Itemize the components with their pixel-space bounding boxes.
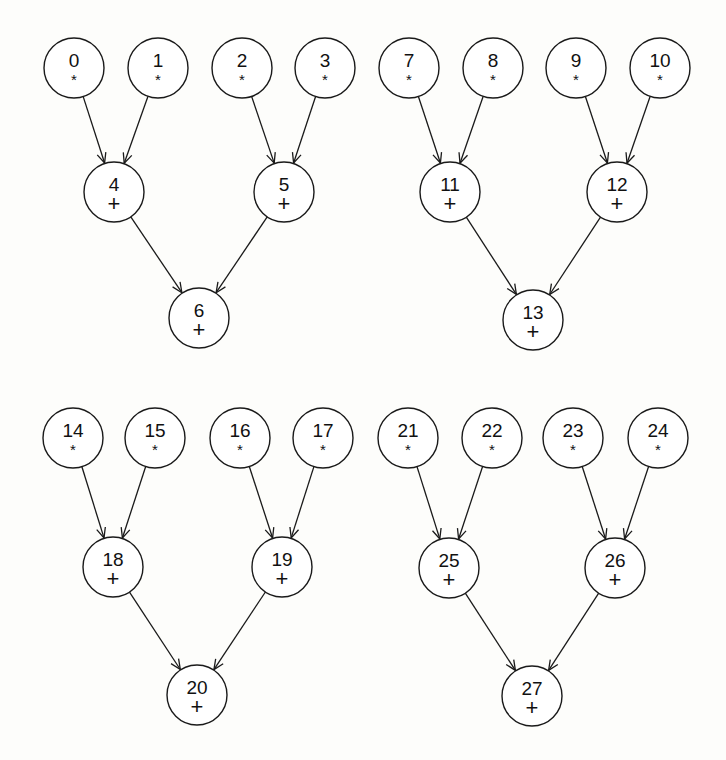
tree-b-nodes: 7*8*9*10*11+12+13+ — [379, 38, 690, 350]
edge-arrow — [550, 217, 601, 294]
add-op-icon: + — [193, 317, 206, 342]
node-5: 5+ — [254, 162, 314, 222]
edge-arrow — [418, 97, 440, 164]
node-4: 4+ — [84, 162, 144, 222]
edge-arrow — [249, 467, 272, 539]
node-6: 6+ — [169, 288, 229, 348]
node-id-label: 24 — [647, 420, 669, 441]
multiply-op-icon: * — [570, 441, 576, 458]
edge-arrow — [459, 467, 483, 540]
node-23: 23* — [543, 408, 603, 468]
nodes-layer: 0*1*2*3*4+5+6+7*8*9*10*11+12+13+14*15*16… — [43, 38, 690, 726]
node-id-label: 10 — [649, 50, 670, 71]
node-19: 19+ — [252, 537, 312, 597]
node-id-label: 14 — [62, 420, 84, 441]
edge-arrow — [460, 96, 483, 163]
multiply-op-icon: * — [489, 441, 495, 458]
edge-arrow — [82, 467, 104, 538]
add-op-icon: + — [276, 566, 289, 591]
node-12: 12+ — [587, 162, 647, 222]
multiply-op-icon: * — [320, 441, 326, 458]
edge-arrow — [466, 217, 516, 294]
add-op-icon: + — [443, 567, 456, 592]
node-2: 2* — [212, 38, 272, 98]
node-14: 14* — [43, 408, 103, 468]
edge-arrow — [83, 97, 104, 163]
add-op-icon: + — [609, 567, 622, 592]
node-id-label: 0 — [69, 50, 80, 71]
node-id-label: 7 — [404, 50, 415, 71]
node-id-label: 16 — [229, 420, 250, 441]
edge-arrow — [124, 96, 148, 163]
node-11: 11+ — [420, 162, 480, 222]
node-13: 13+ — [503, 290, 563, 350]
multiply-op-icon: * — [405, 441, 411, 458]
edge-arrow — [130, 592, 181, 669]
add-op-icon: + — [108, 191, 121, 216]
node-id-label: 8 — [488, 50, 499, 71]
node-id-label: 17 — [312, 420, 333, 441]
node-id-label: 21 — [397, 420, 418, 441]
edge-arrow — [214, 592, 266, 670]
node-20: 20+ — [167, 665, 227, 725]
node-21: 21* — [378, 408, 438, 468]
add-op-icon: + — [527, 319, 540, 344]
node-id-label: 22 — [481, 420, 502, 441]
node-17: 17* — [293, 408, 353, 468]
edge-arrow — [627, 96, 650, 163]
node-9: 9* — [546, 38, 606, 98]
add-op-icon: + — [444, 191, 457, 216]
edge-arrow — [131, 217, 182, 293]
edge-arrow — [122, 467, 145, 539]
edge-arrow — [252, 96, 275, 163]
edge-arrow — [294, 97, 316, 164]
node-id-label: 15 — [144, 420, 165, 441]
node-id-label: 23 — [562, 420, 583, 441]
edge-arrow — [549, 593, 599, 670]
node-27: 27+ — [502, 666, 562, 726]
node-15: 15* — [125, 408, 185, 468]
node-id-label: 1 — [153, 50, 164, 71]
multiply-op-icon: * — [152, 441, 158, 458]
multiply-op-icon: * — [490, 71, 496, 88]
node-8: 8* — [463, 38, 523, 98]
multiply-op-icon: * — [406, 71, 412, 88]
node-22: 22* — [462, 408, 522, 468]
node-25: 25+ — [419, 538, 479, 598]
multiply-op-icon: * — [573, 71, 579, 88]
multiply-op-icon: * — [322, 71, 328, 88]
tree-c-nodes: 14*15*16*17*18+19+20+ — [43, 408, 353, 725]
multiply-op-icon: * — [239, 71, 245, 88]
tree-a-nodes: 0*1*2*3*4+5+6+ — [44, 38, 355, 348]
node-id-label: 3 — [320, 50, 331, 71]
tree-d-nodes: 21*22*23*24*25+26+27+ — [378, 408, 688, 726]
node-18: 18+ — [83, 537, 143, 597]
node-10: 10* — [630, 38, 690, 98]
edge-arrow — [465, 593, 515, 670]
node-0: 0* — [44, 38, 104, 98]
node-16: 16* — [210, 408, 270, 468]
node-3: 3* — [295, 38, 355, 98]
edge-arrow — [585, 97, 607, 164]
multiply-op-icon: * — [155, 71, 161, 88]
add-op-icon: + — [107, 566, 120, 591]
multiply-op-icon: * — [657, 71, 663, 88]
edge-arrow — [216, 217, 267, 293]
edge-arrow — [625, 467, 649, 540]
node-id-label: 9 — [571, 50, 582, 71]
add-op-icon: + — [526, 695, 539, 720]
edge-arrow — [417, 467, 440, 539]
add-op-icon: + — [191, 694, 204, 719]
add-op-icon: + — [611, 191, 624, 216]
edge-arrow — [582, 467, 605, 540]
edges-layer — [82, 96, 650, 670]
node-1: 1* — [128, 38, 188, 98]
edge-arrow — [291, 467, 314, 538]
multiply-op-icon: * — [71, 71, 77, 88]
node-id-label: 2 — [237, 50, 248, 71]
dataflow-diagram: 0*1*2*3*4+5+6+7*8*9*10*11+12+13+14*15*16… — [0, 0, 726, 760]
multiply-op-icon: * — [655, 441, 661, 458]
node-7: 7* — [379, 38, 439, 98]
node-24: 24* — [628, 408, 688, 468]
add-op-icon: + — [278, 191, 291, 216]
